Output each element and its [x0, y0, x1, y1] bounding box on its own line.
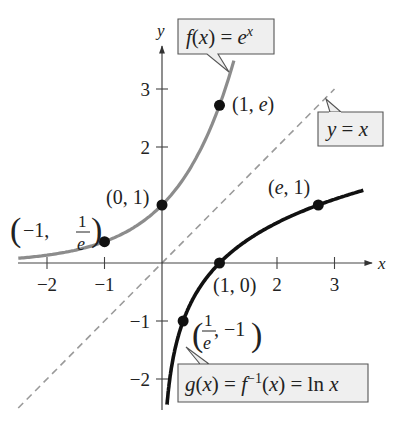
callout-identity: y = x: [318, 99, 383, 146]
point-label-inv-num: 1: [204, 311, 213, 330]
point-label-neg1-den: e: [77, 234, 85, 254]
point-label-inv: ( 1 e , −1 ): [192, 311, 262, 354]
callout-ln: g(x) = f−1(x) = ln x: [178, 347, 368, 402]
point-label-1-e: (1, e): [232, 93, 274, 116]
x-axis-label: x: [377, 254, 386, 273]
callout-identity-text: y = x: [325, 117, 369, 141]
point-label-inv-b: , −1: [214, 318, 245, 340]
data-point: [178, 316, 189, 327]
callout-exp-text: f(x) = ex: [186, 24, 254, 49]
chart: x y −2−123 32−1−2 ( −1, 1 e ) (0, 1) (1,…: [0, 0, 407, 434]
point-label-neg1-a: −1,: [23, 219, 49, 241]
data-point: [214, 258, 225, 269]
y-tick-label: −2: [130, 369, 150, 390]
point-label-1-0: (1, 0): [213, 274, 256, 297]
y-tick-label: 3: [141, 79, 151, 100]
y-tick-label: −1: [130, 311, 150, 332]
point-label-e-1: (e, 1): [268, 176, 310, 199]
x-tick-label: 2: [272, 274, 282, 295]
series-line-identity: [18, 89, 334, 408]
paren-left: (: [192, 316, 203, 354]
y-axis-label: y: [155, 21, 165, 40]
paren-right: ): [91, 211, 102, 249]
paren-left: (: [10, 211, 21, 249]
data-point: [157, 200, 168, 211]
point-label-0-1: (0, 1): [106, 186, 149, 209]
x-tick-label: −2: [37, 274, 57, 295]
x-tick-label: 3: [330, 274, 340, 295]
y-tick-label: 2: [141, 137, 151, 158]
point-label-neg1-num: 1: [78, 212, 87, 231]
x-tick-label: −1: [94, 274, 114, 295]
callout-exp: f(x) = ex: [178, 19, 274, 72]
paren-right: ): [251, 316, 262, 354]
series-line-exp: [18, 61, 234, 259]
callout-ln-text: g(x) = f−1(x) = ln x: [185, 371, 339, 396]
data-point: [313, 200, 324, 211]
point-label-inv-den: e: [203, 333, 211, 353]
data-point: [214, 100, 225, 111]
